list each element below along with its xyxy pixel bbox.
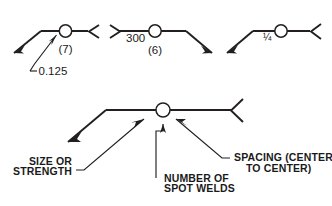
leader-line	[186, 31, 212, 53]
number-callout-line	[156, 124, 163, 178]
tail-fork	[311, 24, 321, 39]
leader-arrowhead	[227, 45, 238, 54]
leader-line	[227, 31, 253, 53]
number-callout-label-line2: SPOT WELDS	[164, 182, 235, 194]
example-middle: 300 (6)	[110, 25, 212, 56]
size-or-strength-value: 0.125	[39, 65, 68, 77]
size-callout-arrowhead	[131, 119, 144, 128]
example-right: ¼	[227, 24, 321, 54]
tail-fork	[89, 25, 99, 38]
spot-weld-circle	[59, 25, 71, 37]
leader-line	[14, 31, 41, 53]
number-callout-arrowhead	[160, 124, 166, 133]
spot-weld-circle	[149, 25, 161, 37]
spot-weld-circle	[156, 103, 170, 117]
number-of-spot-welds-value: (7)	[58, 43, 72, 55]
size-callout-label-line2: STRENGTH	[13, 165, 72, 177]
spacing-callout-line	[176, 119, 230, 158]
spot-weld-circle	[275, 25, 287, 37]
spacing-callout-label-line2: TO CENTER)	[246, 162, 311, 174]
spacing-value: 300	[126, 32, 145, 44]
tail-fork	[231, 99, 243, 122]
leader-arrowhead	[201, 46, 212, 54]
figure-canvas: (7) 0.125 300 (6)	[0, 0, 332, 206]
size-or-strength-value: ¼	[263, 32, 272, 43]
tail-fork	[110, 25, 120, 38]
leader-arrowhead	[14, 45, 25, 54]
example-left: (7) 0.125	[14, 25, 99, 77]
annotated-example: SIZE OR STRENGTH NUMBER OF SPOT WELDS SP…	[13, 99, 332, 194]
leader-line	[68, 110, 106, 142]
number-of-spot-welds-value: (6)	[148, 44, 162, 56]
weld-symbol-diagram: (7) 0.125 300 (6)	[0, 0, 332, 206]
